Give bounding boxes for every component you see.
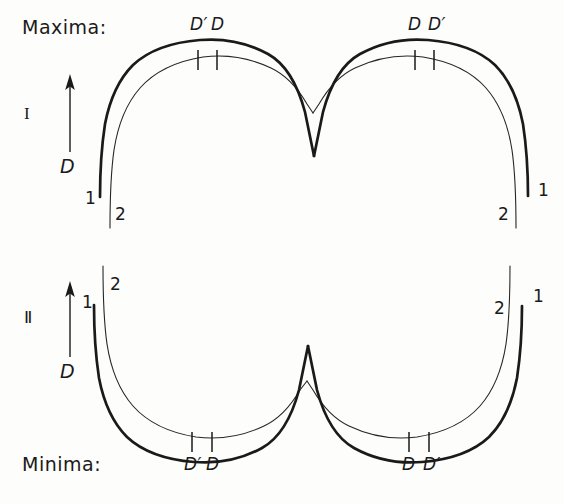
panel-II-curves xyxy=(94,266,522,462)
panel-II-curve-2-left xyxy=(103,266,307,438)
panel-II-left-curve1-label: 1 xyxy=(82,294,93,311)
panel-label-I: I xyxy=(24,105,30,122)
maxima-heading: Maxima: xyxy=(22,18,107,37)
panel-II-curve-1-left xyxy=(94,305,308,462)
tick-label-minima-left-dprime: D′ xyxy=(184,456,202,473)
panel-II-curve-2-right xyxy=(307,266,510,438)
tick-label-maxima-right-d: D xyxy=(408,16,422,33)
panel-I-axis-label: D xyxy=(60,157,75,176)
panel-label-II: Ⅱ xyxy=(24,309,32,326)
figure-canvas xyxy=(0,0,564,504)
tick-label-maxima-left-dprime: D′ xyxy=(190,16,208,33)
panel-I-axis-arrow xyxy=(65,74,75,152)
tick-label-maxima-left-d: D xyxy=(211,16,225,33)
panel-I-right-curve2-label: 2 xyxy=(498,206,509,223)
panel-I-right-curve1-label: 1 xyxy=(538,182,549,199)
panel-II-axis-arrow xyxy=(65,281,75,357)
panel-I-curve-2-right xyxy=(313,56,516,228)
tick-label-maxima-right-dprime: D′ xyxy=(428,16,446,33)
panel-II-axis-label: D xyxy=(60,362,75,381)
figure-root: Maxima: Minima: I Ⅱ D D D′ D D D′ D′ D D… xyxy=(0,0,564,504)
panel-I-left-curve2-label: 2 xyxy=(115,206,126,223)
panel-I-curve-2-left xyxy=(110,56,313,228)
panel-II-right-curve1-label: 1 xyxy=(533,288,544,305)
panel-I-curve-1-left xyxy=(100,40,314,197)
panel-I-curves xyxy=(100,40,528,228)
panel-II-left-curve2-label: 2 xyxy=(110,276,121,293)
panel-I-left-curve1-label: 1 xyxy=(85,190,96,207)
minima-heading: Minima: xyxy=(22,455,101,474)
panel-II-curve-1-right xyxy=(308,306,522,462)
panel-I-curve-1-right xyxy=(314,40,528,196)
tick-label-minima-right-dprime: D′ xyxy=(423,456,441,473)
panel-II-right-curve2-label: 2 xyxy=(494,300,505,317)
tick-label-minima-left-d: D xyxy=(206,456,220,473)
tick-label-minima-right-d: D xyxy=(402,456,416,473)
